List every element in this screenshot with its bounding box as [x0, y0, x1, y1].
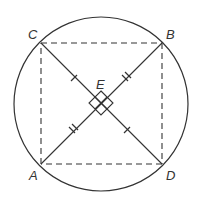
label-D: D [166, 168, 175, 183]
label-A: A [28, 168, 38, 183]
geometry-diagram: C B A D E [0, 0, 201, 204]
label-E: E [96, 77, 105, 92]
label-B: B [166, 27, 175, 42]
diagram-svg: C B A D E [0, 0, 201, 204]
label-C: C [28, 27, 38, 42]
